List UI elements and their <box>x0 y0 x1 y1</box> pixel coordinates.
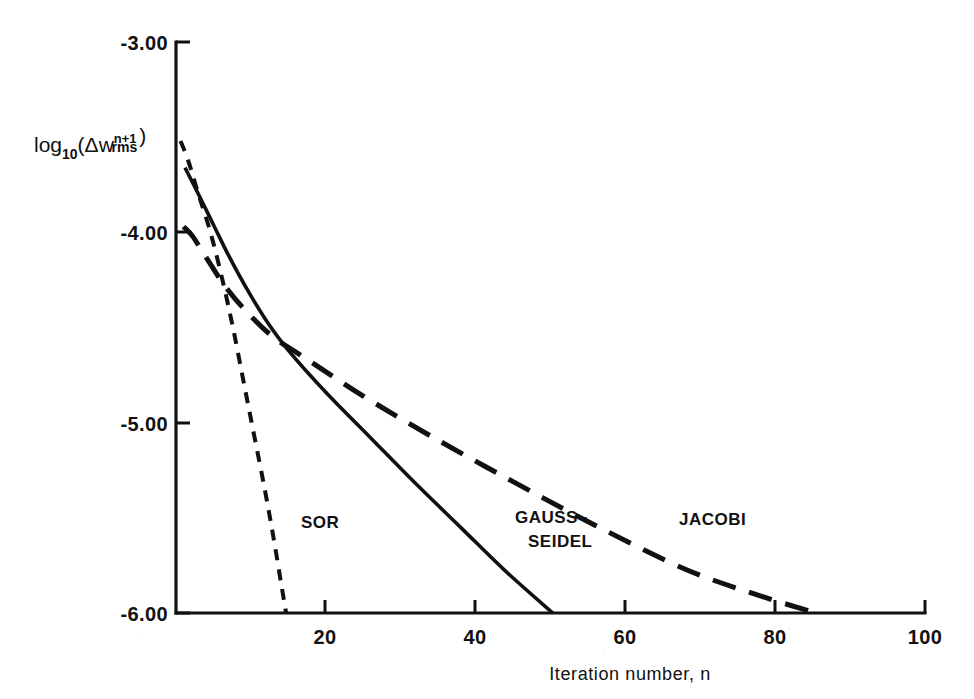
x-tick-label-60: 60 <box>613 626 636 648</box>
y-tick-label-3: -6.00 <box>120 603 168 625</box>
x-tick-marks <box>325 600 925 613</box>
axis-lines <box>176 42 925 613</box>
ylabel-paren-close: ) <box>139 124 146 147</box>
series-label-gauss-seidel-line2: SEIDEL <box>528 532 592 551</box>
data-series-group <box>180 141 816 613</box>
svg-text:log10(Δwn+1rms): log10(Δwn+1rms) <box>34 124 146 162</box>
ylabel-subscript: rms <box>112 139 138 155</box>
x-tick-labels: 20 40 60 80 100 <box>313 626 942 648</box>
figure-container: -3.00 -4.00 -5.00 -6.00 20 40 60 80 100 … <box>0 0 974 699</box>
x-tick-label-20: 20 <box>313 626 336 648</box>
ylabel-paren-open: ( <box>78 133 85 156</box>
series-label-jacobi: JACOBI <box>679 510 746 529</box>
x-tick-label-40: 40 <box>463 626 486 648</box>
x-tick-label-80: 80 <box>763 626 786 648</box>
y-tick-labels: -3.00 -4.00 -5.00 -6.00 <box>120 32 168 625</box>
ylabel-log-subscript: 10 <box>62 146 78 162</box>
y-tick-label-2: -5.00 <box>120 413 168 435</box>
y-tick-label-0: -3.00 <box>120 32 168 54</box>
series-annotations: SOR GAUSS– SEIDEL JACOBI <box>301 508 746 551</box>
ylabel-delta-w: Δw <box>85 133 115 156</box>
y-tick-label-1: -4.00 <box>120 222 168 244</box>
convergence-chart: -3.00 -4.00 -5.00 -6.00 20 40 60 80 100 … <box>0 0 974 699</box>
x-tick-label-100: 100 <box>908 626 943 648</box>
series-label-gauss-seidel-line1: GAUSS– <box>515 508 588 527</box>
series-line-gauss-seidel <box>185 168 553 613</box>
y-axis-title: log10(Δwn+1rms) <box>34 124 146 162</box>
x-axis-title: Iteration number, n <box>549 664 711 684</box>
y-tick-marks <box>176 42 190 613</box>
series-line-sor <box>180 141 286 613</box>
ylabel-log-text: log <box>34 133 62 156</box>
series-label-sor: SOR <box>301 513 339 532</box>
